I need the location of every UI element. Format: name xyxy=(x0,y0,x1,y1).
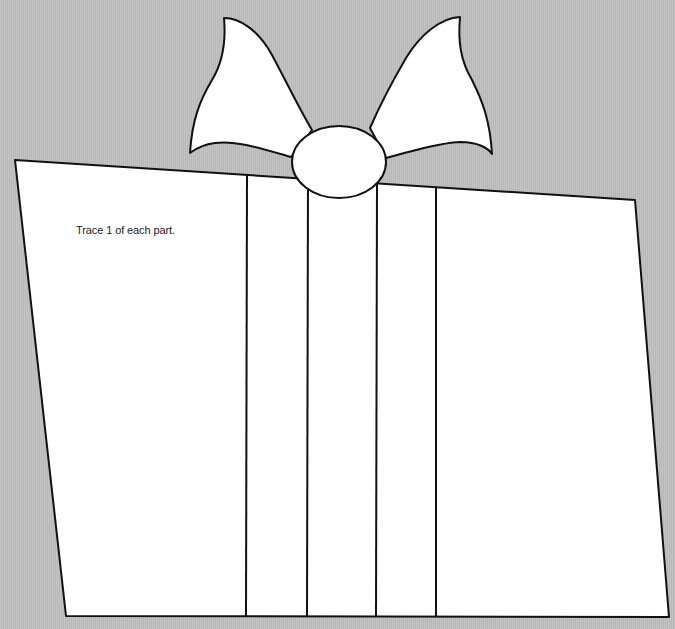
ribbon-line-3 xyxy=(376,184,377,617)
bow-knot xyxy=(292,126,386,198)
instruction-text: Trace 1 of each part. xyxy=(76,224,175,236)
gift-template-art xyxy=(0,0,675,629)
ribbon-line-1 xyxy=(246,175,247,616)
ribbon-line-2 xyxy=(307,180,308,616)
bow-left-loop xyxy=(190,18,312,157)
bow-right-loop xyxy=(370,17,492,158)
